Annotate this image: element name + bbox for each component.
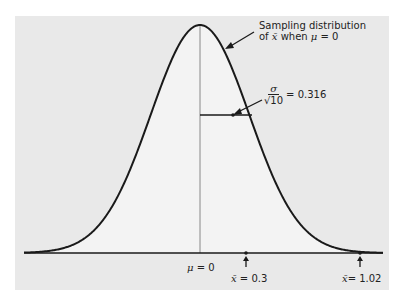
curve-arrow-icon [229,32,254,47]
curve-annotation: Sampling distribution of x̄ when μ = 0 [259,20,366,42]
text: when [277,31,310,42]
xbar-1.02-dot [358,251,362,255]
curve-arrowhead-icon [225,42,234,49]
xbar-value: = 0.3 [237,273,268,284]
sd-annotation: σ √10 = 0.316 [264,83,326,106]
curve-annotation-line1: Sampling distribution [259,20,366,31]
xbar-1.02-arrowhead-icon [357,256,363,261]
sqrt10: √10 [264,95,283,106]
xbar-0.3-arrowhead-icon [243,256,249,261]
area-under-curve [24,25,383,253]
sd-value: = 0.316 [286,89,326,100]
curve-annotation-line2: of x̄ when μ = 0 [259,31,366,42]
sd-fraction: σ √10 [264,83,283,106]
xbar-0.3-dot [244,251,248,255]
xbar-1.02-label: x̄= 1.02 [342,273,381,284]
xbar-value: = 1.02 [348,273,382,284]
mu-value: = 0 [194,262,215,273]
normal-curve-plot [0,0,405,305]
text: = 0 [317,31,338,42]
text: of [259,31,272,42]
sigma-symbol: σ [268,83,279,95]
xbar-0.3-label: x̄ = 0.3 [231,273,267,284]
mu-tick-label: μ = 0 [187,262,215,273]
